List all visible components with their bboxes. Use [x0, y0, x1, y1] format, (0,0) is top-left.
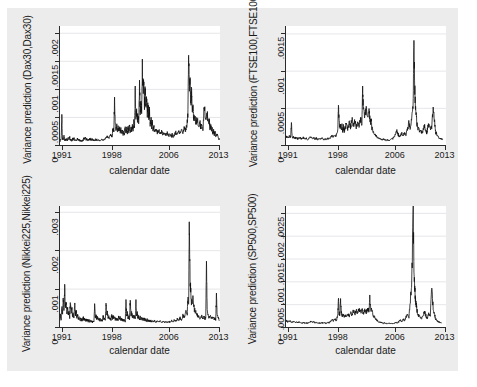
series-plot [59, 26, 220, 145]
series-line [285, 206, 441, 324]
y-tick-label: .003 [49, 212, 61, 242]
figure-canvas: Variance prediction (Dax30,Dax30) 0.0005… [7, 8, 458, 371]
gridlines [285, 213, 446, 327]
x-axis-line [285, 145, 446, 146]
x-tick-label: 2006 [149, 150, 189, 160]
x-axis-line [59, 327, 220, 328]
panel-nikkei225: Variance prediction (Nikkei225,Nikkei225… [7, 190, 232, 371]
x-tick-label: 1991 [268, 332, 308, 342]
x-axis-line [59, 145, 220, 146]
x-axis-title: calendar date [285, 345, 446, 356]
x-tick-label: 2006 [375, 332, 415, 342]
x-tick-label: 2006 [375, 150, 415, 160]
panel-ftse100: Variance prediction (FTSE100,FTSE100) 0.… [233, 8, 458, 189]
x-tick-label: 1998 [92, 150, 132, 160]
y-axis-title: Variance prediction (SP500,SP500) [246, 190, 259, 348]
y-axis-title: Variance prediction (FTSE100,FTSE100) [247, 12, 260, 167]
plot-area-ftse100 [285, 26, 446, 145]
x-axis-title: calendar date [59, 165, 220, 176]
series-plot [59, 206, 220, 327]
y-axis-title: Variance prediction (Dax30,Dax30) [21, 12, 34, 167]
y-tick-label: .0015 [49, 61, 61, 91]
y-axis-title: Variance prediction (Nikkei225,Nikkei225… [20, 190, 33, 352]
panel-sp500: Variance prediction (SP500,SP500) 0.0005… [233, 190, 458, 371]
x-tick-label: 1998 [92, 332, 132, 342]
x-tick-label: 1991 [42, 332, 82, 342]
y-tick-label: .0025 [275, 213, 287, 243]
series-line [285, 40, 443, 141]
y-tick-label: .001 [275, 71, 287, 101]
x-tick-label: 1998 [318, 150, 358, 160]
series-plot [285, 26, 446, 145]
x-axis-title: calendar date [59, 345, 220, 356]
x-tick-label: 1991 [42, 150, 82, 160]
x-axis-title: calendar date [285, 165, 446, 176]
series-plot [285, 206, 446, 327]
x-tick-label: 2013 [425, 332, 465, 342]
plot-area-dax30 [59, 26, 220, 145]
plot-area-nikkei225 [59, 206, 220, 327]
x-tick-label: 1991 [268, 150, 308, 160]
y-tick-label: .0005 [49, 117, 61, 147]
y-tick-label: .002 [49, 250, 61, 280]
y-tick-label: .001 [49, 89, 61, 119]
gridlines [285, 34, 446, 145]
y-tick-label: .001 [49, 289, 61, 319]
x-tick-label: 2013 [425, 150, 465, 160]
series-line [59, 222, 219, 323]
panel-dax30: Variance prediction (Dax30,Dax30) 0.0005… [7, 8, 232, 189]
x-tick-label: 2006 [149, 332, 189, 342]
y-tick-label: .002 [49, 33, 61, 63]
x-axis-line [285, 327, 446, 328]
y-tick-label: .0005 [275, 108, 287, 138]
plot-area-sp500 [285, 206, 446, 327]
x-tick-label: 1998 [318, 332, 358, 342]
gridlines [59, 212, 220, 327]
series-line [59, 55, 219, 142]
y-tick-label: .0015 [275, 33, 287, 63]
